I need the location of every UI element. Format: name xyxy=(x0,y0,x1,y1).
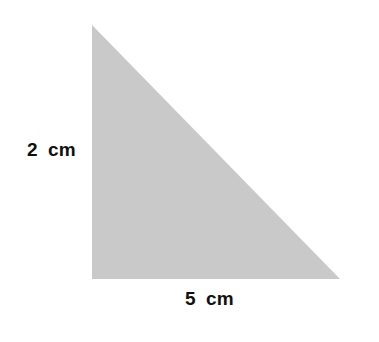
right-triangle xyxy=(92,25,340,279)
base-label: 5 cm xyxy=(185,289,234,308)
height-label: 2 cm xyxy=(27,140,76,159)
